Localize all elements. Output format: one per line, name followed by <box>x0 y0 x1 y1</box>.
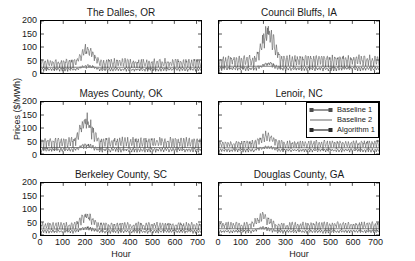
legend-label: Baseline 2 <box>337 115 372 125</box>
legend-label: Algorithm 1 <box>337 125 375 135</box>
panel-title: The Dalles, OR <box>40 7 202 19</box>
x-axis-label: Hour <box>218 249 380 259</box>
multi-panel-price-chart: Prices ($/MWh) The Dalles, OR 200 150 10… <box>0 0 415 261</box>
x-tick: 0 <box>37 238 42 247</box>
y-tick: 200 <box>22 97 37 106</box>
x-tick: 600 <box>345 238 360 247</box>
x-tick: 700 <box>190 238 205 247</box>
y-tick: 100 <box>22 43 37 52</box>
legend: Baseline 1 Baseline 2 Algorithm 1 <box>306 102 379 138</box>
panel-berkeley-county-sc: Berkeley County, SC 200 150 100 50 0 0 1… <box>40 182 202 236</box>
y-tick: 50 <box>27 137 37 146</box>
panel-title: Berkeley County, SC <box>40 169 202 181</box>
y-tick: 50 <box>27 56 37 65</box>
y-tick: 200 <box>22 178 37 187</box>
series-line <box>41 113 201 151</box>
x-axis-label: Hour <box>40 249 202 259</box>
legend-item-baseline-1: Baseline 1 <box>309 105 375 115</box>
legend-marker-line-icon <box>309 125 333 135</box>
y-tick: 150 <box>22 29 37 38</box>
y-tick: 200 <box>22 16 37 25</box>
panel-douglas-county-ga: Douglas County, GA 0 100 200 300 400 500… <box>218 182 380 236</box>
legend-item-algorithm-1: Algorithm 1 <box>309 125 375 135</box>
x-tick: 500 <box>145 238 160 247</box>
x-tick: 300 <box>100 238 115 247</box>
x-tick: 400 <box>300 238 315 247</box>
series-canvas <box>219 21 379 73</box>
y-tick: 100 <box>22 124 37 133</box>
y-tick: 100 <box>22 205 37 214</box>
series-line <box>41 214 201 232</box>
x-tick: 500 <box>323 238 338 247</box>
y-tick: 150 <box>22 110 37 119</box>
series-canvas <box>41 21 201 73</box>
y-tick: 150 <box>22 191 37 200</box>
panel-title: Mayes County, OK <box>40 88 202 100</box>
y-tick: 0 <box>32 70 37 79</box>
legend-label: Baseline 1 <box>337 105 372 115</box>
y-tick: 50 <box>27 218 37 227</box>
x-tick: 0 <box>215 238 220 247</box>
x-tick: 200 <box>77 238 92 247</box>
series-canvas <box>41 183 201 235</box>
y-tick: 0 <box>32 151 37 160</box>
plot-area <box>218 20 380 74</box>
x-tick: 100 <box>233 238 248 247</box>
series-line <box>41 44 201 70</box>
legend-item-baseline-2: Baseline 2 <box>309 115 375 125</box>
series-line <box>219 26 379 69</box>
series-canvas <box>219 183 379 235</box>
series-line <box>219 212 379 231</box>
legend-line-icon <box>309 115 333 125</box>
y-tick: 0 <box>32 232 37 241</box>
x-tick: 300 <box>278 238 293 247</box>
x-tick: 200 <box>255 238 270 247</box>
series-canvas <box>41 102 201 154</box>
y-axis-label: Prices ($/MWh) <box>12 54 22 164</box>
panel-lenoir-nc: Lenoir, NC Baseline 1 Baseline 2 <box>218 101 380 155</box>
panel-title: Lenoir, NC <box>218 88 380 100</box>
plot-area <box>40 20 202 74</box>
plot-area <box>40 182 202 236</box>
panel-title: Council Bluffs, IA <box>218 7 380 19</box>
panel-mayes-county-ok: Mayes County, OK 200 150 100 50 0 <box>40 101 202 155</box>
panel-title: Douglas County, GA <box>218 169 380 181</box>
plot-area <box>40 101 202 155</box>
panel-the-dalles-or: The Dalles, OR 200 150 100 50 0 <box>40 20 202 74</box>
x-tick: 100 <box>55 238 70 247</box>
x-tick: 600 <box>167 238 182 247</box>
legend-marker-line-icon <box>309 105 333 115</box>
x-tick: 400 <box>122 238 137 247</box>
panel-council-bluffs-ia: Council Bluffs, IA <box>218 20 380 74</box>
x-tick: 700 <box>368 238 383 247</box>
plot-area <box>218 182 380 236</box>
